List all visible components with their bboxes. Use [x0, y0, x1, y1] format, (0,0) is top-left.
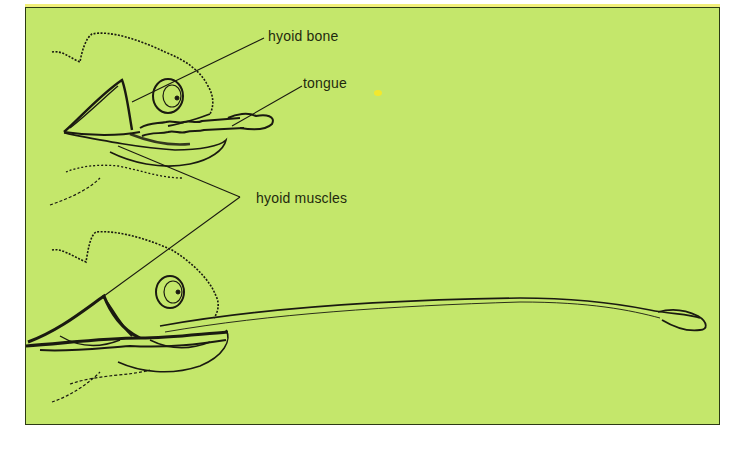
label-hyoid-bone: hyoid bone — [268, 28, 339, 44]
label-tongue: tongue — [303, 75, 347, 91]
diagram-artwork — [0, 0, 749, 461]
chameleon-head-extended — [26, 232, 706, 402]
chameleon-head-retracted — [50, 33, 273, 205]
yellow-speck — [374, 90, 382, 96]
label-hyoid-muscles: hyoid muscles — [256, 190, 347, 206]
